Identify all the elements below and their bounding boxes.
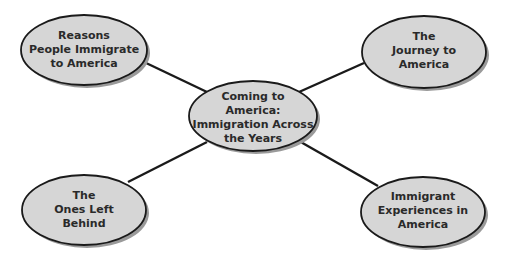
node-label-line: People Immigrate: [29, 43, 139, 56]
node-label-line: Reasons: [58, 29, 110, 42]
connector-top-left: [144, 62, 207, 92]
node-label-line: Immigrant: [391, 190, 456, 203]
node-label-line: Behind: [62, 217, 105, 230]
node-label-line: Experiences in: [378, 204, 468, 217]
center-label-line: Immigration Across: [193, 118, 314, 131]
connector-bottom-right: [299, 141, 378, 186]
center-label-line: America:: [226, 104, 281, 117]
web-diagram: Reasons People Immigrate to America The …: [0, 0, 508, 262]
node-label-line: America: [399, 58, 450, 71]
node-ones-left-behind: The Ones Left Behind: [22, 175, 149, 248]
node-label-line: The: [413, 30, 436, 43]
node-label-line: The: [73, 189, 96, 202]
node-label-line: Journey to: [391, 44, 456, 57]
node-reasons-people-immigrate: Reasons People Immigrate to America: [21, 15, 150, 88]
node-center-topic: Coming to America: Immigration Across th…: [189, 81, 320, 154]
node-label-line: America: [398, 218, 449, 231]
center-label-line: Coming to: [221, 90, 285, 103]
center-label-line: the Years: [224, 132, 283, 145]
connector-bottom-left: [128, 142, 207, 182]
node-immigrant-experiences: Immigrant Experiences in America: [361, 177, 488, 250]
node-label-line: Ones Left: [54, 203, 114, 216]
connector-top-right: [299, 63, 364, 92]
node-journey-to-america: The Journey to America: [362, 16, 489, 91]
node-label-line: to America: [50, 57, 117, 70]
